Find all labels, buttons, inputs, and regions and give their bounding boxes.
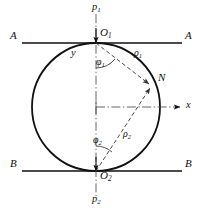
- label-O2: O2: [100, 170, 112, 183]
- label-phi1: φ1: [96, 57, 105, 68]
- label-rho1: ρ1: [134, 48, 142, 59]
- angle-arc-phi2: [96, 146, 112, 152]
- label-N: N: [158, 72, 165, 83]
- label-B-right: B: [185, 158, 192, 169]
- label-O1: O1: [100, 27, 112, 40]
- label-p2: p2: [92, 194, 101, 206]
- label-B-left: B: [10, 158, 17, 169]
- y-direction-curve: [80, 45, 96, 56]
- label-A-right: A: [185, 30, 192, 41]
- label-phi2: φ2: [93, 135, 102, 146]
- geometry-figure: p1 p2 O1 O2 A A B B x y N ρ1 ρ2 φ1 φ2: [0, 0, 205, 213]
- label-A-left: A: [10, 30, 17, 41]
- label-p1: p1: [92, 2, 101, 14]
- label-rho2: ρ2: [123, 129, 131, 140]
- label-y-axis: y: [71, 48, 76, 59]
- label-x-axis: x: [186, 100, 191, 111]
